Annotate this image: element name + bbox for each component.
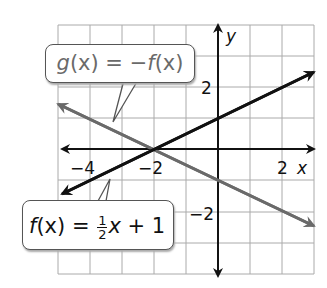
x-axis-label: x	[296, 158, 308, 178]
x-tick-m4: −4	[70, 158, 95, 178]
y-tick-2: 2	[201, 78, 212, 98]
x-tick-2: 2	[277, 158, 288, 178]
x-tick-m2: −2	[138, 158, 163, 178]
g-callout-tail	[113, 80, 138, 122]
y-axis-label: y	[225, 26, 237, 46]
f-callout: f(x) = 12x + 1	[22, 200, 174, 250]
g-callout: g(x) = −f(x)	[45, 44, 195, 83]
f-callout-tail	[98, 179, 110, 201]
y-tick-m2: −2	[189, 204, 214, 224]
one-half-fraction: 12	[97, 214, 107, 241]
